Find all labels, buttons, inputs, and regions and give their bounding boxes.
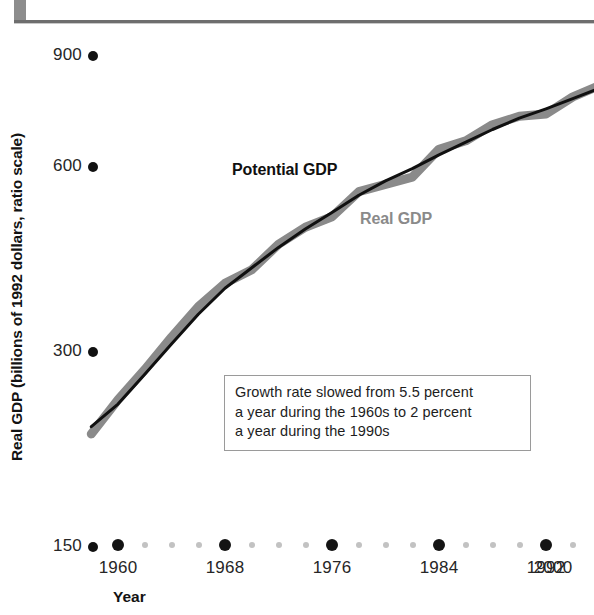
annotation-line-2: a year during the 1960s to 2 percent [235, 403, 520, 423]
potential-gdp-series [91, 65, 594, 427]
chart-plot-area [0, 0, 594, 615]
series-label-potential-gdp: Potential GDP [232, 161, 337, 179]
annotation-line-1: Growth rate slowed from 5.5 percent [235, 383, 520, 403]
series-label-real-gdp: Real GDP [360, 210, 432, 228]
annotation-line-3: a year during the 1990s [235, 422, 520, 442]
annotation-callout: Growth rate slowed from 5.5 percent a ye… [224, 375, 531, 451]
